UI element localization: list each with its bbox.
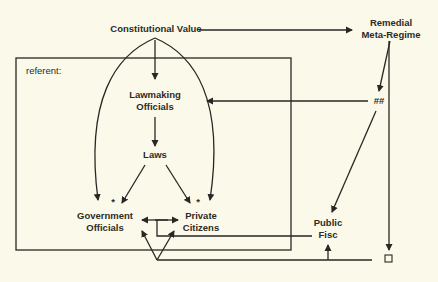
node-laws: Laws (135, 149, 175, 161)
government-line1: Government (72, 210, 138, 222)
node-lawmaking-officials: Lawmaking Officials (115, 89, 195, 113)
edge-constitutional-to-private (155, 38, 214, 200)
private-line2: Citizens (174, 222, 228, 234)
public-fisc-line2: Fisc (310, 229, 346, 241)
referent-label: referent: (26, 65, 61, 77)
edge-laws-to-private (166, 165, 190, 203)
government-line2: Officials (72, 222, 138, 234)
diagram-canvas (0, 0, 438, 282)
private-line1: Private (174, 210, 228, 222)
edge-bottom-to-government (142, 231, 157, 260)
edge-hash-to-public-fisc (332, 111, 376, 212)
terminal-square (385, 255, 392, 262)
asterisk-left: * (108, 196, 118, 208)
public-fisc-line1: Public (310, 217, 346, 229)
lawmaking-line1: Lawmaking (115, 89, 195, 101)
node-public-fisc: Public Fisc (310, 217, 346, 241)
asterisk-right: * (193, 196, 203, 208)
remedial-line1: Remedial (355, 17, 427, 29)
node-government-officials: Government Officials (72, 210, 138, 234)
node-double-hash: ## (369, 95, 389, 107)
edge-laws-to-government (122, 165, 145, 203)
node-remedial-meta-regime: Remedial Meta-Regime (355, 17, 427, 41)
remedial-line2: Meta-Regime (355, 29, 427, 41)
edge-constitutional-to-government (95, 38, 155, 200)
node-constitutional-value: Constitutional Value (100, 23, 212, 35)
node-private-citizens: Private Citizens (174, 210, 228, 234)
lawmaking-line2: Officials (115, 101, 195, 113)
